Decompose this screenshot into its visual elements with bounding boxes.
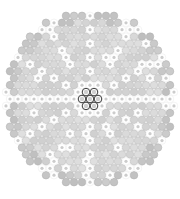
marked-element bbox=[122, 74, 130, 82]
packed-element bbox=[34, 116, 42, 124]
packed-element bbox=[22, 54, 30, 62]
packed-element bbox=[114, 116, 122, 124]
marked-element bbox=[146, 74, 154, 82]
packed-element bbox=[102, 26, 110, 34]
marked-element bbox=[46, 26, 54, 34]
packed-element bbox=[70, 81, 78, 89]
packed-element bbox=[42, 102, 50, 110]
marked-element bbox=[74, 88, 82, 96]
packed-element bbox=[142, 67, 150, 75]
packed-element bbox=[78, 26, 86, 34]
core-element bbox=[90, 102, 98, 110]
outer-element bbox=[166, 109, 174, 117]
marked-element bbox=[158, 54, 166, 62]
marked-element bbox=[110, 95, 118, 103]
marked-element bbox=[38, 26, 46, 34]
marked-element bbox=[134, 109, 142, 117]
packed-element bbox=[42, 158, 50, 166]
outer-element bbox=[18, 47, 26, 55]
packed-element bbox=[46, 123, 54, 131]
marked-element bbox=[86, 81, 94, 89]
marked-element bbox=[26, 61, 34, 69]
packed-element bbox=[102, 164, 110, 172]
packed-element bbox=[54, 26, 62, 34]
outer-element bbox=[94, 178, 102, 186]
outer-element bbox=[26, 33, 34, 41]
packed-element bbox=[54, 40, 62, 48]
packed-element bbox=[90, 74, 98, 82]
packed-element bbox=[146, 102, 154, 110]
outer-element bbox=[162, 61, 170, 69]
packed-element bbox=[18, 116, 26, 124]
marked-element bbox=[50, 171, 58, 179]
packed-element bbox=[130, 144, 138, 152]
outer-element bbox=[22, 151, 30, 159]
marked-element bbox=[122, 158, 130, 166]
core-element bbox=[94, 95, 102, 103]
marked-element bbox=[78, 109, 86, 117]
packed-element bbox=[98, 171, 106, 179]
packed-element bbox=[106, 74, 114, 82]
packed-element bbox=[58, 88, 66, 96]
marked-element bbox=[2, 102, 10, 110]
outer-element bbox=[114, 171, 122, 179]
outer-element bbox=[10, 130, 18, 138]
packed-element bbox=[94, 151, 102, 159]
packed-element bbox=[82, 61, 90, 69]
marked-element bbox=[58, 144, 66, 152]
packed-element bbox=[130, 33, 138, 41]
packed-element bbox=[82, 33, 90, 41]
marked-element bbox=[102, 123, 110, 131]
marked-element bbox=[170, 88, 178, 96]
outer-element bbox=[10, 74, 18, 82]
marked-element bbox=[134, 164, 142, 172]
packed-element bbox=[138, 102, 146, 110]
marked-element bbox=[158, 95, 166, 103]
packed-element bbox=[90, 116, 98, 124]
marked-element bbox=[86, 178, 94, 186]
packed-element bbox=[110, 137, 118, 145]
packed-element bbox=[118, 151, 126, 159]
packed-element bbox=[94, 123, 102, 131]
outer-element bbox=[106, 19, 114, 27]
packed-element bbox=[82, 116, 90, 124]
packed-element bbox=[126, 137, 134, 145]
packed-element bbox=[130, 130, 138, 138]
marked-element bbox=[50, 116, 58, 124]
packed-element bbox=[138, 74, 146, 82]
packed-element bbox=[102, 137, 110, 145]
packed-element bbox=[66, 102, 74, 110]
marked-element bbox=[126, 26, 134, 34]
packed-element bbox=[26, 88, 34, 96]
packed-element bbox=[46, 40, 54, 48]
packed-element bbox=[74, 130, 82, 138]
packed-element bbox=[118, 40, 126, 48]
packed-element bbox=[130, 47, 138, 55]
core-element bbox=[82, 102, 90, 110]
core-element bbox=[86, 95, 94, 103]
marked-element bbox=[118, 26, 126, 34]
packed-element bbox=[82, 47, 90, 55]
marked-element bbox=[22, 95, 30, 103]
packed-element bbox=[66, 47, 74, 55]
packed-element bbox=[122, 61, 130, 69]
packed-element bbox=[102, 109, 110, 117]
marked-element bbox=[6, 95, 14, 103]
outer-element bbox=[162, 116, 170, 124]
packed-element bbox=[18, 88, 26, 96]
packed-element bbox=[94, 40, 102, 48]
marked-element bbox=[122, 33, 130, 41]
packed-element bbox=[138, 47, 146, 55]
packed-element bbox=[46, 54, 54, 62]
marked-element bbox=[162, 102, 170, 110]
marked-element bbox=[138, 61, 146, 69]
packed-element bbox=[50, 47, 58, 55]
outer-element bbox=[162, 130, 170, 138]
packed-element bbox=[66, 116, 74, 124]
packed-element bbox=[94, 67, 102, 75]
packed-element bbox=[62, 40, 70, 48]
packed-element bbox=[42, 47, 50, 55]
packed-element bbox=[74, 158, 82, 166]
outer-element bbox=[146, 144, 154, 152]
marked-element bbox=[166, 95, 174, 103]
